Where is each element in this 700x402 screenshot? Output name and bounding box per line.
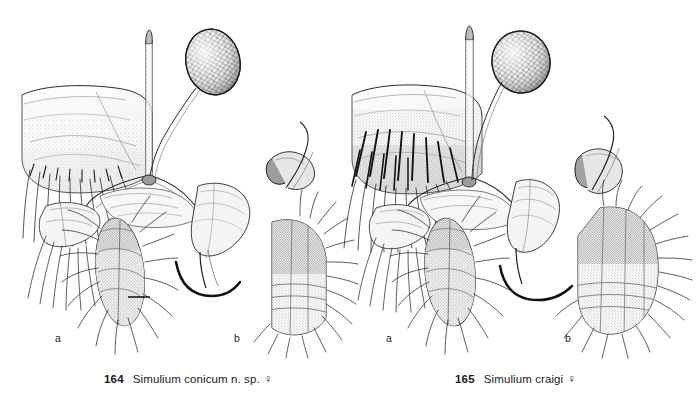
figure-caption-165: 165Simulium craigi♀ [455,372,576,386]
figure-number-165: 165 [455,373,475,385]
genital-fork-hook-164b [176,262,240,296]
spermatheca-165 [472,27,554,180]
subfigure-label-165b: b [565,332,571,344]
illustration-plate: a b a b 164Simulium conicum n. sp.♀ 165S… [0,0,700,402]
genital-membrane-165a [420,190,518,230]
spermatheca-164 [150,24,246,177]
valve-setae-165a [358,238,425,312]
hypogynial-valve-165a [369,205,430,249]
paraproct-165b [575,116,622,193]
subfigure-label-164b: b [234,332,240,344]
genital-fork-stem-164a [146,30,152,184]
figure-165 [344,26,692,358]
figure-taxon-164: Simulium conicum n. sp. [133,373,260,385]
subfigure-label-164a: a [55,332,61,344]
hypogynial-valve-165b [507,178,559,284]
figure-164 [20,24,358,358]
genital-fork-stem-165a [466,26,473,186]
hypogynial-valve-164b [190,182,254,288]
figure-number-164: 164 [104,373,124,385]
cercus-165b [556,180,692,358]
female-symbol-165: ♀ [567,372,576,386]
subfigure-label-165a: a [386,332,392,344]
paraproct-164b [266,122,314,190]
female-symbol-164: ♀ [264,372,273,386]
cercus-164b [254,190,358,358]
figure-165b-lateral [500,116,692,358]
hypogynial-valve-164a [39,200,100,247]
figure-164a-ventral [20,30,201,354]
figure-164b-lateral [176,122,358,358]
valve-setae-164a [28,236,95,310]
genital-fork-hook-165b [500,266,572,300]
plate-artwork [0,0,700,402]
figure-caption-164: 164Simulium conicum n. sp.♀ [104,372,273,386]
figure-taxon-165: Simulium craigi [484,373,563,385]
